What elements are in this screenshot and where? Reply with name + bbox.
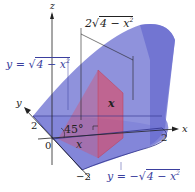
y-tick-2: 2 — [31, 121, 37, 131]
origin-label: 0 — [45, 141, 51, 151]
x-tick-2: 2 — [161, 133, 167, 143]
z-axis-arrow — [50, 12, 54, 19]
z-axis-label: z — [50, 2, 55, 11]
base-x-label: x — [76, 139, 82, 150]
height-label: x — [108, 98, 115, 109]
width-label: 2√4 − x2 — [85, 17, 133, 29]
x-axis-arrow — [172, 127, 179, 132]
y-axis-arrow — [24, 107, 31, 114]
diagram-stage: z x y 2 −2 2 0 y = √4 − x2 y = −√4 − x2 … — [0, 0, 195, 192]
x-axis-label: x — [182, 124, 188, 134]
angle-label: 45° — [64, 124, 84, 135]
y-axis-label: y — [16, 98, 22, 108]
y-tick-neg2: −2 — [76, 172, 91, 182]
bottom-curve-equation: y = −√4 − x2 — [107, 170, 180, 182]
top-curve-equation: y = √4 − x2 — [6, 58, 70, 70]
